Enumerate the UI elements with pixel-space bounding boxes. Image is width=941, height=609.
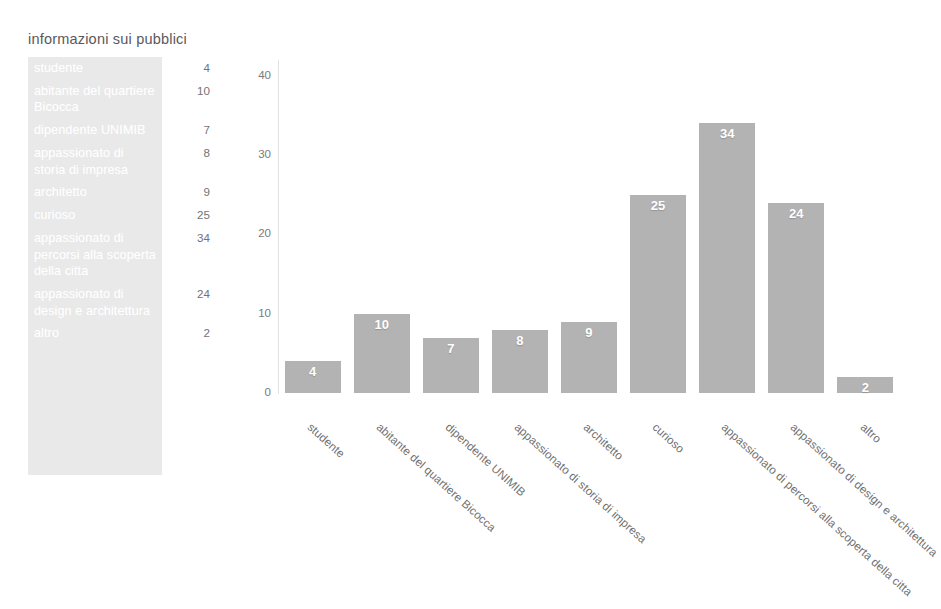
bar-chart: 0102030404studente10abitante del quartie…	[250, 40, 922, 600]
y-axis-tick-label: 10	[258, 308, 271, 320]
table-row: abitante del quartiere Bicocca10	[28, 83, 210, 116]
plot-area: 0102030404studente10abitante del quartie…	[278, 60, 900, 393]
table-row: appassionato di design e architettura24	[28, 286, 210, 319]
table-row: appassionato di storia di impresa8	[28, 145, 210, 178]
table-row-label: studente	[28, 60, 156, 77]
x-axis-tick-label: appassionato di design e architettura	[789, 420, 941, 559]
bar: 7	[423, 338, 479, 394]
bar: 8	[492, 330, 548, 393]
table-row-label: altro	[28, 325, 156, 342]
bar: 4	[285, 361, 341, 393]
bar: 25	[630, 195, 686, 393]
bar-value-label: 25	[630, 199, 686, 212]
table-row-value: 24	[156, 286, 210, 303]
bar-value-label: 10	[354, 318, 410, 331]
x-axis-tick-label: altro	[858, 420, 884, 445]
table-row: appassionato di percorsi alla scoperta d…	[28, 230, 210, 280]
bar-value-label: 9	[561, 326, 617, 339]
page-title: informazioni sui pubblici	[28, 31, 187, 47]
y-axis-tick-label: 40	[258, 70, 271, 82]
table-row: altro2	[28, 325, 210, 342]
x-axis-tick-label: abitante del quartiere Bicocca	[374, 420, 498, 534]
summary-panel: informazioni sui pubblici studente4abita…	[0, 0, 250, 500]
y-axis-tick-label: 0	[265, 387, 271, 399]
bar: 2	[837, 377, 893, 393]
x-axis-tick-label: appassionato di storia di impresa	[512, 420, 649, 545]
x-axis-tick-label: studente	[305, 420, 347, 460]
table-row: studente4	[28, 60, 210, 77]
table-row-value: 4	[156, 60, 210, 77]
summary-table: studente4abitante del quartiere Bicocca1…	[28, 57, 210, 475]
table-row: dipendente UNIMIB7	[28, 122, 210, 139]
table-row-value: 34	[156, 230, 210, 247]
table-row-label: abitante del quartiere Bicocca	[28, 83, 156, 116]
table-row-label: appassionato di design e architettura	[28, 286, 156, 319]
table-row-label: appassionato di percorsi alla scoperta d…	[28, 230, 156, 280]
x-axis-tick-label: curioso	[651, 420, 688, 455]
table-row-label: appassionato di storia di impresa	[28, 145, 156, 178]
table-row-value: 8	[156, 145, 210, 162]
y-axis-tick-label: 30	[258, 149, 271, 161]
bar: 24	[768, 203, 824, 393]
bar: 9	[561, 322, 617, 393]
table-row-value: 10	[156, 83, 210, 100]
table-row-value: 7	[156, 122, 210, 139]
bar-value-label: 7	[423, 342, 479, 355]
table-row-label: dipendente UNIMIB	[28, 122, 156, 139]
bar-value-label: 2	[837, 381, 893, 394]
x-axis-tick-label: architetto	[581, 420, 626, 462]
table-row-value: 2	[156, 325, 210, 342]
table-row-label: architetto	[28, 184, 156, 201]
table-row-value: 9	[156, 184, 210, 201]
table-row: curioso25	[28, 207, 210, 224]
bar-value-label: 24	[768, 207, 824, 220]
bar: 10	[354, 314, 410, 393]
table-row: architetto9	[28, 184, 210, 201]
bar-value-label: 34	[699, 127, 755, 140]
bar: 34	[699, 123, 755, 393]
bar-value-label: 4	[285, 365, 341, 378]
y-axis-tick-label: 20	[258, 229, 271, 241]
table-row-label: curioso	[28, 207, 156, 224]
table-row-value: 25	[156, 207, 210, 224]
bar-value-label: 8	[492, 334, 548, 347]
